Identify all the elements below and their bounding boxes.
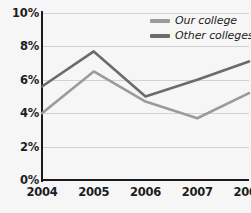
x-axis-line bbox=[41, 179, 249, 181]
chart-legend: Our collegeOther colleges bbox=[150, 14, 251, 42]
y-tick-label: 2% bbox=[1, 140, 39, 154]
gridline bbox=[42, 113, 249, 114]
gridline bbox=[42, 80, 249, 81]
x-tick-label: 2007 bbox=[175, 185, 219, 199]
gridline bbox=[42, 46, 249, 47]
legend-label: Our college bbox=[175, 14, 237, 27]
y-tick-label: 6% bbox=[1, 73, 39, 87]
y-tick-label: 10% bbox=[1, 6, 39, 20]
legend-item[interactable]: Our college bbox=[150, 14, 251, 27]
x-tick-label: 2004 bbox=[20, 185, 64, 199]
legend-swatch-icon bbox=[150, 34, 170, 38]
legend-item[interactable]: Other colleges bbox=[150, 29, 251, 42]
x-tick-label: 2008 bbox=[227, 185, 251, 199]
y-axis-line bbox=[41, 11, 43, 182]
y-axis-tick-labels: 10%8%6%4%2%0% bbox=[0, 0, 39, 213]
line-chart: 10%8%6%4%2%0% 20042005200620072008 Our c… bbox=[0, 0, 251, 213]
legend-label: Other colleges bbox=[175, 29, 251, 42]
y-tick-label: 8% bbox=[1, 39, 39, 53]
gridline bbox=[42, 147, 249, 148]
y-tick-label: 4% bbox=[1, 106, 39, 120]
x-tick-label: 2005 bbox=[72, 185, 116, 199]
x-tick-label: 2006 bbox=[124, 185, 168, 199]
legend-swatch-icon bbox=[150, 19, 170, 23]
